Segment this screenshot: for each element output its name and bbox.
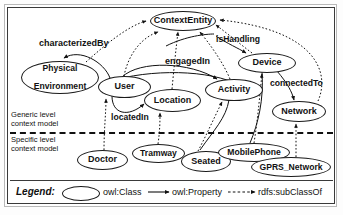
node-device[interactable]: Device bbox=[238, 53, 296, 73]
node-physical-environment[interactable]: Physical Environment bbox=[21, 61, 99, 94]
generic-level-line2: context model bbox=[11, 119, 58, 128]
node-label: Doctor bbox=[86, 155, 119, 164]
edge-sub-tramway-location bbox=[158, 113, 160, 144]
node-label: Location bbox=[152, 96, 194, 105]
specific-level-label: Specific level context model bbox=[11, 135, 58, 154]
node-label: ContextEntity bbox=[152, 16, 215, 25]
node-context-entity[interactable]: ContextEntity bbox=[150, 11, 216, 31]
legend-class-ellipse-icon bbox=[62, 186, 100, 201]
edge-isHandling-tail bbox=[166, 34, 214, 46]
node-label: Tramway bbox=[138, 149, 179, 158]
specific-level-line1: Specific level bbox=[11, 135, 58, 144]
node-activity[interactable]: Activity bbox=[205, 79, 263, 101]
node-label-line2: Environment bbox=[32, 82, 89, 91]
node-doctor[interactable]: Doctor bbox=[77, 150, 128, 170]
edge-label-connected-to: connectedTo bbox=[270, 78, 323, 88]
node-user[interactable]: User bbox=[98, 76, 151, 98]
edge-activity-down bbox=[200, 100, 229, 150]
legend-class-label: owl:Class bbox=[103, 187, 142, 197]
generic-level-line1: Generic level bbox=[11, 110, 58, 119]
edge-label-located-in: locatedIn bbox=[111, 112, 149, 122]
node-label-line1: Physical bbox=[32, 64, 89, 73]
node-label: Network bbox=[279, 107, 319, 116]
edge-sub-doctor-user bbox=[104, 99, 106, 150]
node-location[interactable]: Location bbox=[144, 89, 201, 112]
edge-label-characterized-by: characterizedBy bbox=[39, 38, 109, 48]
edge-sub-user-contextentity bbox=[124, 32, 158, 76]
node-gprs-network[interactable]: GPRS_Network bbox=[251, 157, 331, 177]
node-label: Device bbox=[250, 58, 283, 67]
node-label: User bbox=[112, 82, 136, 91]
node-network[interactable]: Network bbox=[272, 101, 326, 122]
node-label: Seated bbox=[189, 157, 223, 166]
ontology-diagram: Generic level context model Specific lev… bbox=[0, 0, 343, 215]
edge-sub-seated-activity bbox=[198, 102, 222, 151]
legend-subclass-label: rdfs:subClassOf bbox=[258, 187, 322, 197]
generic-level-label: Generic level context model bbox=[11, 110, 58, 129]
edge-locatedIn bbox=[112, 96, 144, 112]
node-tramway[interactable]: Tramway bbox=[132, 144, 185, 163]
node-label: GPRS_Network bbox=[257, 163, 324, 172]
node-label: Physical Environment bbox=[30, 64, 91, 90]
specific-level-line2: context model bbox=[11, 144, 58, 153]
level-divider bbox=[10, 132, 333, 134]
node-label: MobilePhone bbox=[225, 148, 282, 157]
legend-title: Legend: bbox=[16, 186, 55, 197]
node-label: Activity bbox=[216, 85, 253, 94]
edge-label-engaged-in: engagedIn bbox=[165, 56, 210, 66]
edge-label-is-handling: isHandling bbox=[216, 34, 260, 44]
legend-property-label: owl:Property bbox=[172, 187, 222, 197]
